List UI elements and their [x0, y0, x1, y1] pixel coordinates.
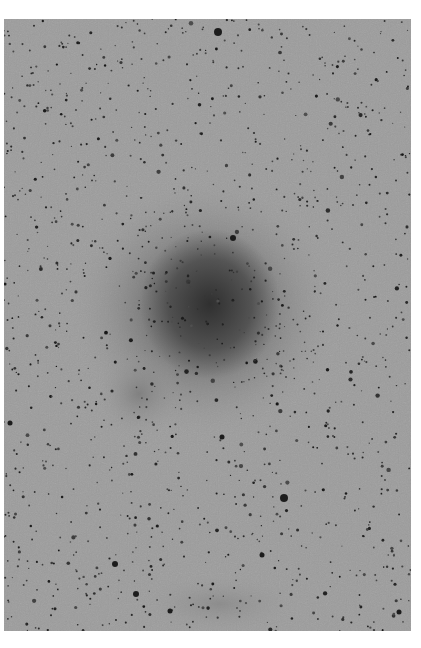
starfield-nebula-image: [4, 19, 411, 631]
astronomical-plate: [4, 19, 411, 631]
